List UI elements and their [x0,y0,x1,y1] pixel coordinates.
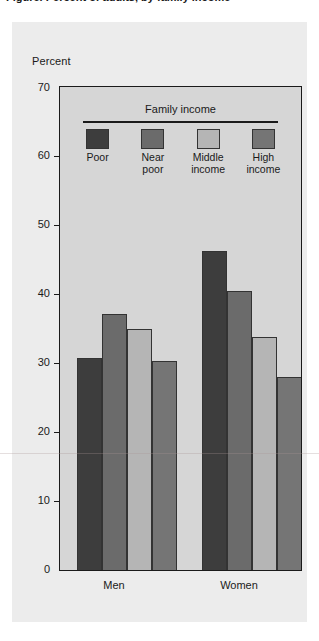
chart-figure: Figure. Percent of adults, by family inc… [0,0,319,641]
y-axis-tick-label: 10 [14,495,50,506]
y-axis-tick-label: 70 [14,82,50,93]
y-axis-tick-label: 20 [14,426,50,437]
bar [127,329,152,570]
group-label-women: Women [199,579,279,591]
group-label-men: Men [74,579,154,591]
bar-series-container [60,87,301,570]
chart-panel: Percent 706050403020100 Family income Po… [12,22,307,622]
bar [202,251,227,570]
y-axis-tick-label: 30 [14,357,50,368]
y-axis-tick-label: 40 [14,288,50,299]
bar [77,358,102,570]
bar [152,361,177,570]
y-axis-tick-label: 50 [14,219,50,230]
y-axis-tick-rail: 706050403020100 [12,86,59,572]
y-axis-tick-label: 60 [14,150,50,161]
clipped-figure-title-text: Figure. Percent of adults, by family inc… [6,0,230,3]
clipped-figure-title: Figure. Percent of adults, by family inc… [0,0,319,14]
bar [227,291,252,570]
y-axis-title: Percent [32,55,71,67]
y-axis-tick-label: 0 [14,564,50,575]
bar [277,377,302,570]
plot-area: Family income PoorNear poorMiddle income… [59,86,302,571]
scan-artifact-line [0,453,319,454]
bar [102,314,127,570]
